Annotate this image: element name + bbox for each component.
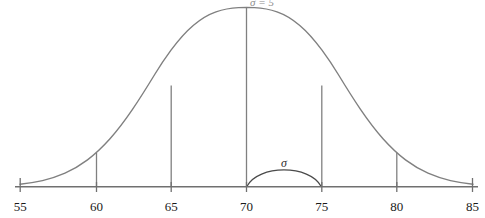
axis-label-80: 80	[390, 199, 403, 214]
axis-label-55: 55	[14, 199, 27, 214]
distribution-chart-svg: σ = 5 σ 55 60	[0, 0, 485, 218]
sigma-annotation-label: σ	[281, 156, 288, 170]
chart-title: σ = 5	[250, 0, 274, 8]
normal-distribution-figure: σ = 5 σ 55 60	[0, 0, 485, 218]
axis-tick-labels-group: 55 60 65 70 75 80 85	[14, 199, 479, 214]
axis-label-85: 85	[466, 199, 479, 214]
axis-label-70: 70	[240, 199, 253, 214]
axis-label-65: 65	[165, 199, 178, 214]
axis-label-60: 60	[90, 199, 103, 214]
axis-label-75: 75	[315, 199, 328, 214]
sigma-span-arc	[247, 170, 321, 186]
